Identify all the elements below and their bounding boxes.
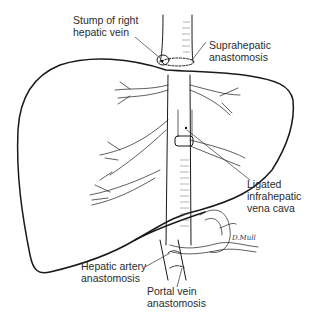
leader-hepatic-artery: [145, 253, 170, 267]
stump-marker: [161, 60, 164, 63]
leader-stump: [135, 37, 160, 58]
leader-suprahepatic: [192, 42, 206, 60]
label-ligated-infrahepatic-vena-cava: Ligated infrahepatic vena cava: [247, 178, 301, 214]
label-suprahepatic-anastomosis: Suprahepatic anastomosis: [209, 39, 271, 63]
label-stump-right-hepatic-vein: Stump of right hepatic vein: [73, 14, 138, 38]
liver-inferior-edge: [135, 212, 205, 240]
artist-signature: D.Mull: [232, 234, 256, 242]
label-hepatic-artery-anastomosis: Hepatic artery anastomosis: [81, 260, 146, 284]
vena-cava: [160, 15, 193, 245]
suprahepatic-anastomosis-ring: [162, 58, 194, 66]
leader-ligated-ivc: [187, 130, 250, 180]
portal-structures: [170, 210, 258, 254]
label-portal-vein-anastomosis: Portal vein anastomosis: [147, 285, 206, 309]
